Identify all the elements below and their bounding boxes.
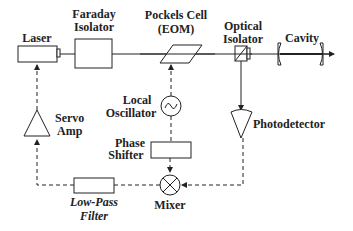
faraday-label-1: Faraday [72,7,115,21]
mixer-label: Mixer [154,198,186,212]
phase-shifter [151,142,191,158]
servo-label-2: Amp [57,124,83,138]
photodetector-label: Photodetector [253,117,326,131]
local-oscillator-label-1: Local [123,93,152,107]
pdh-diagram: Laser Faraday Isolator Pockels Cell (EOM… [0,0,353,231]
servo-label-1: Servo [55,111,84,125]
cavity-label: Cavity [285,31,319,45]
optical-isolator-label-1: Optical [224,19,263,33]
pockels-label-1: Pockels Cell [145,8,208,22]
local-oscillator-label-2: Oscillator [106,106,157,120]
optical-isolator [235,46,252,61]
lpf-label-1: Low-Pass [69,195,118,209]
phase-shifter-label-2: Shifter [108,148,144,162]
laser-label: Laser [22,31,52,45]
servo-amp [24,110,50,136]
optical-isolator-label-2: Isolator [223,32,264,46]
photodetector [231,110,252,139]
faraday-isolator [75,39,112,68]
low-pass-filter [74,178,114,193]
lpf-label-2: Filter [79,209,108,223]
pockels-label-2: (EOM) [158,22,195,36]
laser [18,46,60,62]
faraday-label-2: Isolator [74,20,115,34]
local-oscillator [161,96,181,116]
mixer [160,175,180,195]
